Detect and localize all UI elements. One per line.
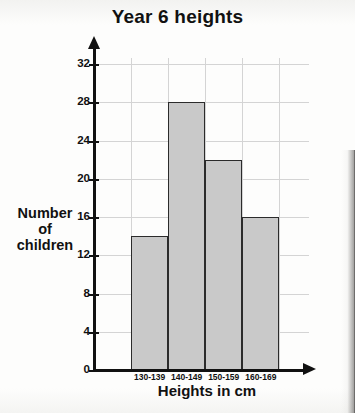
y-axis-tick-label: 12 xyxy=(64,248,90,260)
y-axis-arrow-icon xyxy=(88,36,100,49)
y-axis-tick-label: 8 xyxy=(64,287,90,299)
bar xyxy=(205,160,242,370)
y-axis-tick-label: 28 xyxy=(64,95,90,107)
y-axis-label-line-2: of xyxy=(2,221,88,237)
y-axis-tick-label: 24 xyxy=(64,134,90,146)
x-axis-label: Heights in cm xyxy=(94,382,320,399)
chart-title: Year 6 heights xyxy=(0,6,355,28)
bar xyxy=(242,217,279,370)
bar-chart: Year 6 heights Number of children Height… xyxy=(0,0,355,413)
y-axis-tick-label: 32 xyxy=(64,57,90,69)
y-axis-line xyxy=(93,46,96,371)
x-axis-arrow-icon xyxy=(303,363,316,375)
gridline-horizontal xyxy=(94,64,309,65)
bar xyxy=(168,102,205,370)
y-axis-tick-label: 0 xyxy=(64,363,90,375)
y-axis-tick-label: 20 xyxy=(64,172,90,184)
x-axis-tick-label: 160-169 xyxy=(236,372,285,382)
y-axis-tick-label: 4 xyxy=(64,325,90,337)
x-axis-line xyxy=(94,369,306,372)
gridline-vertical xyxy=(279,58,280,370)
bar xyxy=(131,236,168,370)
y-axis-tick-label: 16 xyxy=(64,210,90,222)
